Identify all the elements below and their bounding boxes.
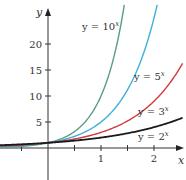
- y-axis-label: y: [35, 6, 43, 19]
- y-tick-label: 5: [36, 117, 42, 128]
- y-tick-label: 10: [29, 91, 42, 102]
- curve-label-5-pow-x: y = 5x: [133, 70, 165, 82]
- y-tick-label: 15: [29, 65, 42, 76]
- exponential-functions-chart: x y 125101520 y = 10xy = 5xy = 3xy = 2x: [0, 0, 186, 180]
- y-axis-arrow-icon: [45, 8, 51, 16]
- x-tick-label: 2: [151, 153, 157, 164]
- ticks: 125101520: [22, 39, 158, 165]
- x-axis-arrow-icon: [176, 145, 184, 151]
- y-tick-label: 20: [29, 39, 42, 50]
- curve-labels: y = 10xy = 5xy = 3xy = 2x: [81, 20, 169, 142]
- curve-label-3-pow-x: y = 3x: [137, 105, 169, 117]
- x-axis-label: x: [178, 154, 185, 167]
- axes: x y: [0, 6, 185, 180]
- curve-label-2-pow-x: y = 2x: [137, 130, 169, 142]
- x-tick-label: 1: [98, 153, 104, 164]
- curve-label-10-pow-x: y = 10x: [81, 20, 119, 32]
